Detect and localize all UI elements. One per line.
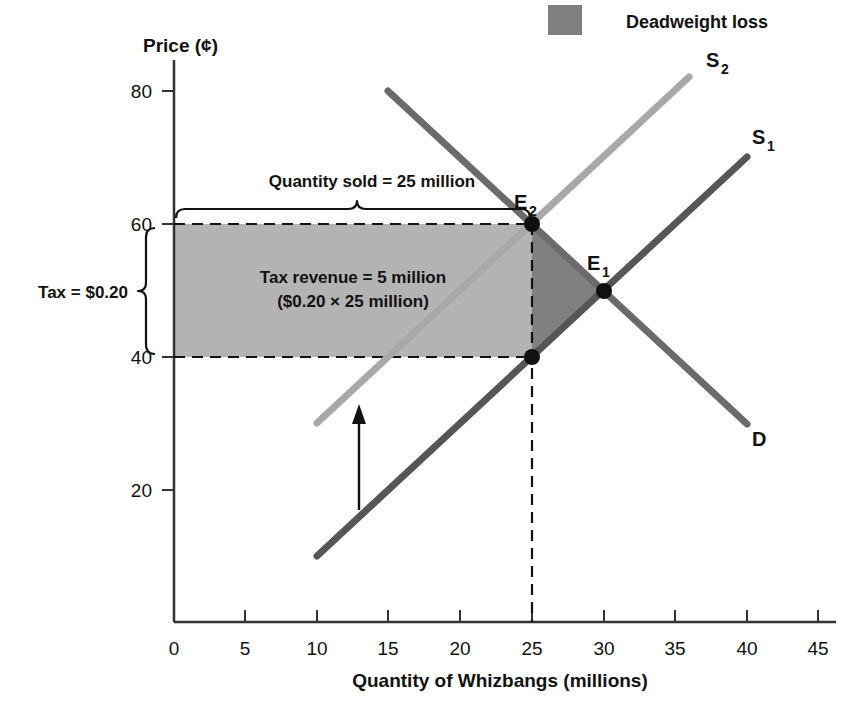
- x-tick-label-15: 15: [377, 638, 398, 659]
- x-tick-label-35: 35: [664, 638, 685, 659]
- x-tick-label-30: 30: [593, 638, 614, 659]
- supply-curve-s2-sublabel: 2: [721, 61, 729, 77]
- tax-brace: [138, 228, 155, 354]
- x-axis-title: Quantity of Whizbangs (millions): [352, 670, 648, 691]
- supply-curve-s2-label: S: [706, 49, 719, 71]
- y-tick-label-40: 40: [131, 347, 152, 368]
- x-tick-label-20: 20: [449, 638, 470, 659]
- annotation-quantity-sold: Quantity sold = 25 million: [269, 172, 475, 191]
- supply-curve-s1-label: S: [752, 126, 765, 148]
- y-axis-title: Price (¢): [143, 35, 218, 56]
- demand-curve-label: D: [752, 428, 766, 450]
- x-tick-label-5: 5: [240, 638, 251, 659]
- annotation-tax-revenue-line2: ($0.20 × 25 million): [277, 292, 429, 311]
- x-tick-label-25: 25: [521, 638, 542, 659]
- point-e1: [596, 283, 612, 299]
- supply-shift-arrow-head: [352, 404, 366, 424]
- annotation-tax-amount: Tax = $0.20: [38, 283, 128, 302]
- quantity-sold-brace: [176, 201, 530, 218]
- tax-incidence-chart: Deadweight loss 80 60 40 20 0 5 10 15 20…: [0, 0, 843, 701]
- x-tick-label-45: 45: [807, 638, 828, 659]
- legend-swatch-deadweight-loss: [548, 5, 582, 35]
- annotation-tax-revenue-line1: Tax revenue = 5 million: [260, 268, 446, 287]
- supply-curve-s1-sublabel: 1: [767, 138, 775, 154]
- region-tax-revenue: [174, 224, 532, 357]
- point-e1-sublabel: 1: [602, 264, 610, 280]
- y-tick-label-60: 60: [131, 214, 152, 235]
- x-tick-label-10: 10: [306, 638, 327, 659]
- point-supplier-price: [524, 349, 540, 365]
- x-tick-label-0: 0: [169, 638, 180, 659]
- x-tick-label-40: 40: [736, 638, 757, 659]
- y-tick-label-20: 20: [131, 480, 152, 501]
- region-deadweight-loss: [532, 224, 604, 357]
- point-e1-label: E: [587, 252, 600, 274]
- y-tick-label-80: 80: [131, 81, 152, 102]
- legend-label-deadweight-loss: Deadweight loss: [626, 12, 768, 32]
